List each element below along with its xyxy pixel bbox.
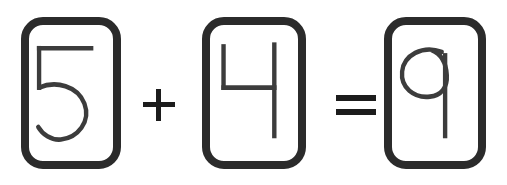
- digit-9-glyph: [392, 25, 478, 161]
- digit-5-glyph: [29, 25, 113, 161]
- digit-card-5[interactable]: 5: [21, 17, 121, 169]
- equation-scene: 5 + 4 = 9 5 + 4 = 9: [0, 0, 507, 185]
- digit-card-9[interactable]: 9: [384, 17, 486, 169]
- operator-plus: +: [140, 86, 178, 124]
- equation-text: 5 + 4 = 9: [0, 0, 1, 1]
- digit-4-glyph: [210, 25, 298, 161]
- plus-vertical-bar: [156, 89, 161, 121]
- operator-equals: =: [332, 92, 380, 118]
- digit-card-4[interactable]: 4: [202, 17, 306, 169]
- equals-bottom-bar: [336, 109, 376, 115]
- equals-top-bar: [336, 95, 376, 101]
- operator-equals-symbol: =: [332, 92, 333, 93]
- operator-plus-symbol: +: [140, 86, 141, 87]
